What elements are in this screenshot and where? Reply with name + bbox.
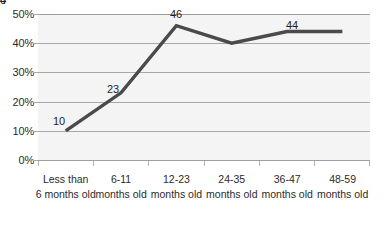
- line-chart: 50% 40% 30% 20% 10% 0% 10 23 46 40 44 44…: [0, 0, 388, 225]
- data-label: 10: [53, 115, 65, 127]
- x-category-label: 48-59 months old: [317, 172, 368, 202]
- x-category-label: 6-11 months old: [95, 172, 146, 202]
- data-label: 44: [0, 0, 6, 6]
- x-category-label: 36-47 months old: [262, 172, 313, 202]
- series-line: [66, 26, 343, 131]
- x-axis: Less than 6 months old 6-11 months old 1…: [38, 172, 370, 220]
- data-label: 23: [107, 83, 119, 95]
- x-category-label: 24-35 months old: [206, 172, 257, 202]
- data-label: 46: [170, 8, 182, 20]
- data-label: 44: [286, 19, 298, 31]
- x-category-label: Less than 6 months old: [36, 172, 96, 202]
- x-category-label: 12-23 months old: [151, 172, 202, 202]
